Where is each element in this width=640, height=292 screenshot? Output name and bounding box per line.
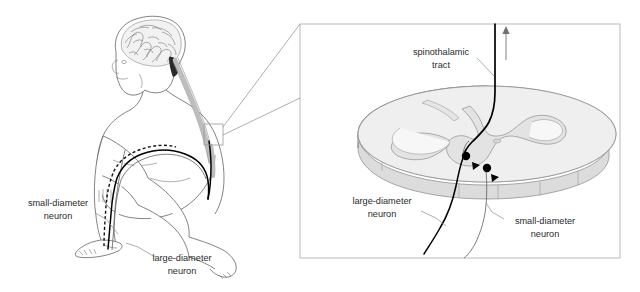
front-shin-outline bbox=[94, 136, 103, 240]
label-large-diameter-neuron-line2: neuron bbox=[168, 266, 197, 276]
anatomical-figure: small-diameter neuron large-diameter neu… bbox=[0, 0, 640, 292]
foot-outline bbox=[75, 240, 122, 258]
label-large-diameter-neuron-right-line1: large-diameter bbox=[352, 196, 411, 206]
human-figure-illustration bbox=[75, 16, 300, 279]
label-small-diameter-neuron-line2: neuron bbox=[44, 211, 73, 221]
label-small-diameter-neuron-right-line2: neuron bbox=[531, 229, 560, 239]
label-spinothalamic-tract-line2: tract bbox=[432, 60, 450, 70]
white-matter-right bbox=[529, 120, 562, 141]
label-small-diameter-neuron-line1: small-diameter bbox=[28, 198, 88, 208]
synapse-upper-bouton bbox=[462, 152, 470, 160]
label-large-diameter-neuron-line1: large-diameter bbox=[152, 253, 211, 263]
synapse-lower-bouton bbox=[483, 164, 491, 172]
label-spinothalamic-tract-line1: spinothalamic bbox=[413, 47, 470, 57]
callout-leader-upper bbox=[223, 24, 300, 127]
callout-leader-lower bbox=[223, 98, 300, 135]
leader-large-diameter-left bbox=[126, 243, 155, 257]
central-canal bbox=[493, 139, 501, 143]
label-small-diameter-neuron-right-line1: small-diameter bbox=[515, 216, 575, 226]
label-large-diameter-neuron-right-line2: neuron bbox=[368, 209, 397, 219]
